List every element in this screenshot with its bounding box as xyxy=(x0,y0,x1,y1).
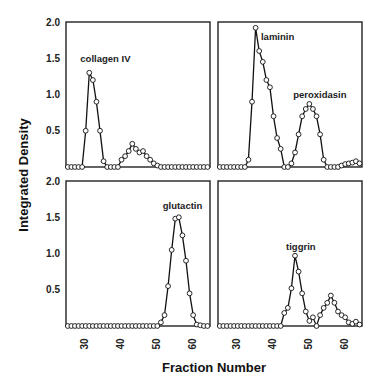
data-point xyxy=(94,99,99,104)
panel-top-left: collagen IV0.51.01.52.0 xyxy=(46,17,210,170)
peak-label: laminin xyxy=(261,31,294,42)
peak-label: tiggrin xyxy=(286,241,316,252)
y-tick-label: 2.0 xyxy=(46,17,60,28)
data-point xyxy=(253,25,258,30)
x-tick-label: 30 xyxy=(231,338,242,350)
data-point xyxy=(260,59,265,64)
data-point xyxy=(80,165,85,170)
panel-top-right: lamininperoxidasin xyxy=(217,22,362,169)
data-point xyxy=(90,78,95,83)
panel-bottom-left: glutactin0.51.01.52.030405060 xyxy=(46,176,210,350)
data-point xyxy=(264,78,269,83)
data-point xyxy=(278,146,283,151)
data-point xyxy=(321,157,326,162)
y-axis-label: Integrated Density xyxy=(16,118,31,232)
data-point xyxy=(176,215,181,220)
x-tick-label: 40 xyxy=(267,338,278,350)
data-point xyxy=(289,286,294,291)
x-tick-label: 30 xyxy=(79,338,90,350)
data-point xyxy=(205,165,210,170)
data-point xyxy=(130,141,135,146)
data-point xyxy=(162,313,167,318)
data-point xyxy=(300,114,305,119)
data-point xyxy=(257,49,262,54)
data-point xyxy=(314,324,319,329)
data-point xyxy=(296,269,301,274)
panel-bottom-right: tiggrin30405060 xyxy=(217,181,362,350)
panel-frame xyxy=(218,181,362,326)
data-point xyxy=(166,284,171,289)
x-tick-label: 60 xyxy=(339,338,350,350)
data-point xyxy=(123,154,128,159)
data-point xyxy=(126,149,131,154)
y-tick-label: 1.5 xyxy=(46,212,60,223)
data-point xyxy=(191,313,196,318)
x-axis-label: Fraction Number xyxy=(162,360,266,375)
y-tick-label: 0.5 xyxy=(46,125,60,136)
data-point xyxy=(268,85,273,90)
y-tick-label: 1.5 xyxy=(46,53,60,64)
peak-label: collagen IV xyxy=(80,53,131,64)
data-point xyxy=(332,300,337,305)
data-point xyxy=(296,132,301,137)
data-point xyxy=(180,233,185,238)
data-point xyxy=(87,70,92,75)
data-point xyxy=(246,157,251,162)
data-point xyxy=(116,165,121,170)
data-point xyxy=(343,315,348,320)
data-point xyxy=(293,253,298,258)
data-point xyxy=(278,324,283,329)
y-tick-label: 2.0 xyxy=(46,176,60,187)
y-tick-label: 1.0 xyxy=(46,248,60,259)
data-point xyxy=(169,247,174,252)
data-point xyxy=(83,128,88,133)
data-point xyxy=(300,291,305,296)
data-point xyxy=(282,311,287,316)
data-point xyxy=(184,258,189,263)
data-point xyxy=(159,320,164,325)
data-point xyxy=(303,309,308,314)
data-point xyxy=(357,161,362,166)
y-tick-label: 0.5 xyxy=(46,284,60,295)
chart-canvas: collagen IV0.51.01.52.0lamininperoxidasi… xyxy=(0,0,377,385)
x-tick-label: 60 xyxy=(187,338,198,350)
x-tick-label: 50 xyxy=(151,338,162,350)
data-point xyxy=(325,300,330,305)
series-line xyxy=(220,256,360,326)
x-tick-label: 40 xyxy=(115,338,126,350)
data-point xyxy=(357,322,362,327)
data-point xyxy=(271,114,276,119)
data-point xyxy=(293,150,298,155)
series-line xyxy=(68,217,208,326)
data-point xyxy=(307,102,312,107)
peak-label: glutactin xyxy=(163,200,203,211)
data-point xyxy=(141,149,146,154)
data-point xyxy=(250,99,255,104)
data-point xyxy=(187,291,192,296)
x-tick-label: 50 xyxy=(303,338,314,350)
data-point xyxy=(242,165,247,170)
data-point xyxy=(328,293,333,298)
data-point xyxy=(311,107,316,112)
data-point xyxy=(318,313,323,318)
peak-label: peroxidasin xyxy=(293,89,347,100)
data-point xyxy=(285,305,290,310)
data-point xyxy=(318,132,323,137)
data-point xyxy=(314,114,319,119)
data-point xyxy=(205,324,210,329)
data-point xyxy=(275,136,280,141)
data-point xyxy=(311,315,316,320)
y-tick-label: 1.0 xyxy=(46,89,60,100)
data-point xyxy=(289,161,294,166)
data-point xyxy=(321,305,326,310)
data-point xyxy=(303,107,308,112)
data-point xyxy=(98,128,103,133)
data-point xyxy=(101,159,106,164)
